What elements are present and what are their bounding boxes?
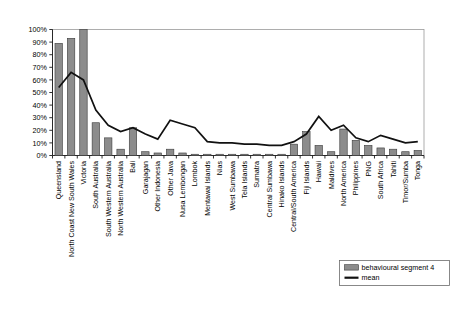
chart-bar (179, 153, 186, 156)
chart-legend: behavioural segment 4mean (340, 261, 450, 286)
chart-bar (228, 154, 235, 155)
chart-bar (129, 128, 136, 156)
line-series-mean (59, 72, 418, 145)
chart-bar (67, 38, 74, 155)
x-axis-tick-label: Tela Islands (241, 161, 249, 199)
y-axis-tick-label: 90% (33, 38, 48, 47)
x-axis-tick-label: Central Sumbawa (266, 161, 274, 217)
x-axis-tick-label: PNG (365, 161, 373, 176)
chart-bar (352, 140, 359, 155)
chart-bar (105, 138, 112, 156)
chart-bar (191, 154, 198, 155)
x-axis-tick-label: Central/South America (290, 161, 298, 232)
chart-bar (402, 152, 409, 156)
x-axis-tick-label: Mentawai Islands (204, 161, 212, 216)
chart-bar (166, 149, 173, 155)
chart-bar (315, 145, 322, 155)
legend-bar-swatch (345, 265, 359, 270)
y-axis-tick-label: 10% (33, 139, 48, 148)
mean-line-path (59, 72, 418, 145)
x-axis-tick-label: Timor/Sumba (402, 161, 410, 203)
bar-line-chart: 0%10%20%30%40%50%60%70%80%90%100% Queens… (0, 0, 468, 313)
x-axis-tick-label: Victoria (80, 161, 88, 185)
x-axis-tick-label: North America (340, 161, 348, 206)
x-axis: QueenslandNorth Coast New South WalesVic… (53, 156, 425, 257)
chart-bar (278, 154, 285, 155)
chart-bar (154, 153, 161, 156)
x-axis-tick-label: South Africa (377, 161, 385, 199)
x-axis-tick-label: South Western Australia (105, 161, 113, 237)
x-axis-tick-label: Tahiti (390, 161, 398, 178)
x-axis-tick-label: Hinako Islands (278, 161, 286, 208)
chart-bar (117, 149, 124, 155)
x-axis-tick-label: Fiji Islands (303, 161, 311, 195)
x-axis-tick-label: North Coast New South Wales (68, 161, 76, 257)
axis-lines (53, 30, 425, 156)
x-axis-tick-label: Hawaii (315, 161, 323, 183)
chart-bar (414, 150, 421, 155)
y-axis-tick-label: 70% (33, 63, 48, 72)
y-axis-tick-label: 80% (33, 50, 48, 59)
x-axis-tick-label: West Sumbawa (229, 161, 237, 211)
x-axis-tick-label: South Australia (92, 161, 100, 209)
chart-bar (142, 152, 149, 156)
y-axis-tick-label: 20% (33, 126, 48, 135)
bar-series-behavioural-segment-4 (55, 30, 422, 156)
x-axis-tick-label: Other Java (167, 161, 175, 196)
chart-bar (377, 148, 384, 156)
chart-bar (389, 149, 396, 155)
chart-bar (340, 129, 347, 155)
chart-bar (241, 154, 248, 155)
y-axis-tick-label: 30% (33, 113, 48, 122)
chart-bar (80, 30, 87, 156)
chart-bar (365, 145, 372, 155)
x-axis-tick-label: Philippines (352, 161, 360, 196)
plot-frame (53, 30, 425, 156)
chart-bar (290, 144, 297, 155)
legend-label-mean: mean (362, 273, 380, 282)
x-axis-tick-label: Sumatra (253, 161, 261, 188)
x-axis-tick-label: Lombok (191, 161, 199, 187)
chart-bar (265, 154, 272, 155)
y-axis-tick-label: 50% (33, 88, 48, 97)
y-axis-tick-label: 100% (29, 25, 48, 34)
legend-label-behavioural-segment-4: behavioural segment 4 (362, 263, 435, 272)
chart-bar (204, 154, 211, 155)
x-axis-tick-label: Queensland (55, 161, 63, 199)
x-axis-tick-label: Nias (216, 161, 224, 176)
x-axis-tick-label: Bali (129, 161, 137, 173)
x-axis-tick-label: Other Indonesia (154, 161, 162, 212)
y-axis-tick-label: 40% (33, 101, 48, 110)
x-axis-tick-label: Maldives (328, 161, 336, 189)
x-axis-tick-label: Tonga (414, 161, 422, 180)
y-axis-tick-label: 60% (33, 76, 48, 85)
chart-bar (253, 154, 260, 155)
x-axis-tick-label: North Western Australia (117, 161, 125, 236)
chart-bar (55, 43, 62, 155)
chart-bar (216, 154, 223, 155)
y-axis-tick-label: 0% (37, 151, 48, 160)
chart-container: 0%10%20%30%40%50%60%70%80%90%100% Queens… (0, 0, 468, 313)
chart-bar (327, 152, 334, 156)
plot-area-border (53, 30, 425, 156)
x-axis-tick-label: Nusa Lembongan (179, 161, 187, 217)
x-axis-tick-label: Garajagan (142, 161, 150, 194)
chart-bar (92, 123, 99, 156)
